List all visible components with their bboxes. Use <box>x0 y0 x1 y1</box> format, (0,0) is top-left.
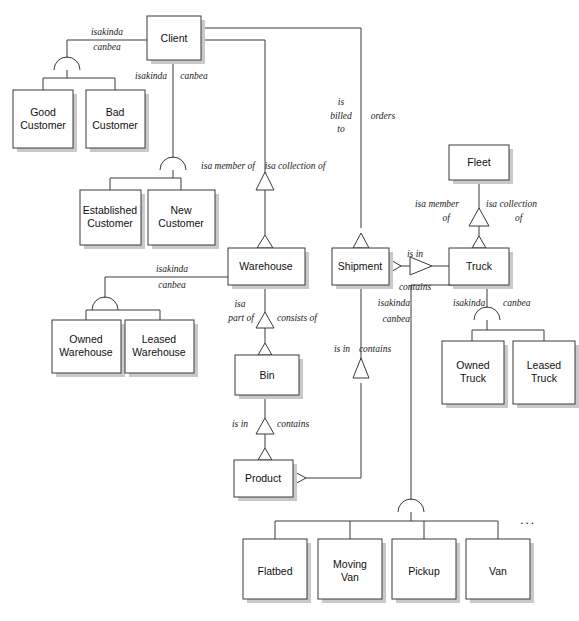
entity-owned-truck-label-line2: Truck <box>460 372 487 384</box>
label-truck-sub-isakinda: isakinda <box>453 298 485 308</box>
entity-bin[interactable]: Bin <box>235 355 303 399</box>
ellipsis-more-vehicle-kinds: ... <box>520 512 536 527</box>
entity-flatbed[interactable]: Flatbed <box>243 539 311 603</box>
entity-pickup-label: Pickup <box>408 565 440 577</box>
aggregation-arrow-truck <box>472 236 486 248</box>
label-truck-is-in: is in <box>407 249 423 259</box>
label-vehicle-isakinda: isakinda <box>378 298 410 308</box>
entity-fleet[interactable]: Fleet <box>449 145 513 184</box>
entity-warehouse[interactable]: Warehouse <box>228 248 309 289</box>
label-bin-isa-line1: isa <box>234 299 245 309</box>
generalization-triangle-bin <box>256 312 274 328</box>
entity-leased-warehouse[interactable]: Leased Warehouse <box>125 320 198 377</box>
arc-client-customer-quality <box>54 57 80 70</box>
label-warehouse-isakinda: isakinda <box>156 264 188 274</box>
link-fan-warehouse-subtypes <box>86 310 160 320</box>
label-fleet-isa-member-of-line2: of <box>443 213 452 223</box>
entity-shipment-label: Shipment <box>338 260 382 272</box>
entity-leased-truck-label-line1: Leased <box>527 359 562 371</box>
generalization-triangle-fleet-truck <box>469 208 489 226</box>
label-fleet-isa-collection-of-line2: of <box>515 213 524 223</box>
entity-established-customer-label-line1: Established <box>83 204 137 216</box>
entity-leased-truck-label-line2: Truck <box>531 372 558 384</box>
entity-bad-customer[interactable]: Bad Customer <box>86 90 149 152</box>
entity-product[interactable]: Product <box>234 460 297 501</box>
entity-shipment[interactable]: Shipment <box>332 248 393 289</box>
arc-vehicle-kinds <box>398 499 424 512</box>
entity-owned-truck-label-line1: Owned <box>456 359 489 371</box>
entity-established-customer-label-line2: Customer <box>87 217 133 229</box>
arc-client-customer-tenure <box>160 157 186 170</box>
entity-van-label: Van <box>489 565 507 577</box>
generalization-triangle-truck-shipment <box>410 257 432 275</box>
label-client-isakinda-2: isakinda <box>135 71 167 81</box>
link-fan-vehicle-kinds <box>275 512 498 539</box>
entity-good-customer-label-line2: Customer <box>20 119 66 131</box>
generalization-triangle-shipment-product <box>353 358 369 378</box>
entity-flatbed-label: Flatbed <box>257 565 292 577</box>
label-fleet-isa-member-of-line1: isa member <box>415 199 459 209</box>
aggregation-arrow-warehouse <box>257 235 273 248</box>
label-shipment-contains: contains <box>359 344 391 354</box>
entity-new-customer-label-line2: Customer <box>158 217 204 229</box>
label-truck-sub-canbea: canbea <box>503 298 531 308</box>
entity-new-customer-label-line1: New <box>170 204 191 216</box>
label-client-isakinda-1: isakinda <box>91 27 123 37</box>
link-fan-truck-subtypes <box>472 320 544 341</box>
entity-leased-warehouse-label-line1: Leased <box>142 333 177 345</box>
entity-warehouse-label: Warehouse <box>239 260 292 272</box>
link-fan-customer-quality <box>43 70 115 90</box>
entity-owned-warehouse-label-line2: Warehouse <box>59 346 112 358</box>
entity-moving-van-label-line2: Van <box>341 571 359 583</box>
label-client-canbea-1: canbea <box>93 42 121 52</box>
entity-established-customer[interactable]: Established Customer <box>80 190 145 249</box>
label-orders: orders <box>371 111 396 121</box>
aggregation-arrow-shipment <box>353 233 369 248</box>
label-is-billed-to-line3: to <box>337 124 345 134</box>
entity-bin-label: Bin <box>259 369 274 381</box>
entity-client-label: Client <box>161 32 188 44</box>
entity-new-customer[interactable]: New Customer <box>148 190 219 249</box>
diagram-svg: Client Good Customer Bad Customer Establ <box>0 0 579 621</box>
link-fan-customer-tenure <box>110 170 181 190</box>
entity-pickup[interactable]: Pickup <box>392 539 460 603</box>
entity-good-customer-label-line1: Good <box>30 106 56 118</box>
entity-van[interactable]: Van <box>466 539 534 603</box>
label-is-billed-to-line1: is <box>338 97 345 107</box>
label-product-is-in: is in <box>232 419 248 429</box>
entity-bad-customer-label-line2: Customer <box>92 119 138 131</box>
entity-good-customer[interactable]: Good Customer <box>13 90 77 152</box>
arc-truck-subtypes <box>474 307 500 320</box>
arc-warehouse-subtypes <box>92 297 118 310</box>
entity-truck[interactable]: Truck <box>449 248 513 289</box>
label-warehouse-canbea: canbea <box>158 280 186 290</box>
label-product-contains: contains <box>277 419 309 429</box>
entity-owned-warehouse[interactable]: Owned Warehouse <box>52 320 125 377</box>
entity-fleet-label: Fleet <box>467 156 490 168</box>
entity-bad-customer-label-line1: Bad <box>106 106 125 118</box>
label-client-canbea-2: canbea <box>180 71 208 81</box>
label-warehouse-isa-member-of: isa member of <box>201 161 256 171</box>
entity-owned-truck[interactable]: Owned Truck <box>442 341 508 408</box>
entity-owned-warehouse-label-line1: Owned <box>69 333 102 345</box>
aggregation-arrow-product <box>258 448 272 460</box>
entity-moving-van[interactable]: Moving Van <box>318 539 386 603</box>
generalization-triangle-warehouse-fleet <box>256 172 274 190</box>
entity-leased-warehouse-label-line2: Warehouse <box>132 346 185 358</box>
label-bin-isa-line2: part of <box>227 313 255 323</box>
label-is-billed-to-line2: billed <box>330 111 352 121</box>
entity-truck-label: Truck <box>466 260 493 272</box>
label-fleet-isa-collection-of-line1: isa collection <box>486 199 537 209</box>
generalization-triangle-product <box>256 418 274 434</box>
label-shipment-is-in: is in <box>334 344 350 354</box>
label-warehouse-isa-collection-of: isa collection of <box>265 161 327 171</box>
label-bin-consists-of: consists of <box>277 313 318 323</box>
label-vehicle-canbea: canbea <box>383 314 411 324</box>
link-client-to-warehouse <box>201 40 265 176</box>
entity-client[interactable]: Client <box>147 16 205 64</box>
link-product-to-shipment <box>293 383 361 478</box>
entity-leased-truck[interactable]: Leased Truck <box>513 341 579 408</box>
entity-moving-van-label-line1: Moving <box>333 558 367 570</box>
aggregation-arrow-bin <box>258 343 272 355</box>
diagram-canvas: Client Good Customer Bad Customer Establ <box>0 0 579 621</box>
